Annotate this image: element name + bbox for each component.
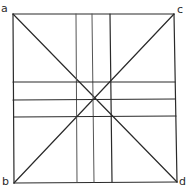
square-edge-left bbox=[13, 14, 14, 183]
horizontal-lines bbox=[13, 82, 176, 117]
horizontal-line-3 bbox=[14, 116, 176, 117]
corner-label-d: d bbox=[179, 176, 186, 187]
horizontal-line-2 bbox=[13, 99, 175, 100]
square-edge-bottom bbox=[14, 182, 177, 183]
corner-label-a: a bbox=[1, 3, 8, 14]
vertical-line-3 bbox=[110, 14, 112, 182]
vertical-line-1 bbox=[76, 14, 77, 182]
corner-label-c: c bbox=[177, 4, 183, 15]
diagram-canvas bbox=[0, 0, 188, 194]
diagonals bbox=[13, 14, 177, 183]
square-edge-right bbox=[174, 14, 177, 182]
corner-label-b: b bbox=[2, 176, 9, 187]
geometry-diagram: a c b d bbox=[0, 0, 188, 194]
